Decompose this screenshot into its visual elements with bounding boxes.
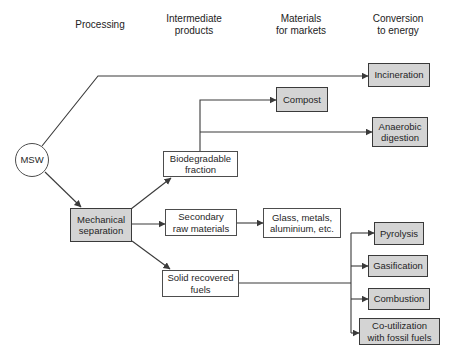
node-msw: MSW [15,143,49,177]
node-secondary-raw-materials: Secondary raw materials [165,209,237,236]
column-header-materials-for-markets: Materials for markets [257,13,345,37]
node-solid-recovered-fuels: Solid recovered fuels [162,270,239,297]
node-gasification: Gasification [368,255,428,277]
node-pyrolysis: Pyrolysis [374,222,424,245]
node-glass-metals-aluminium: Glass, metals, aluminium, etc. [263,208,341,238]
column-header-conversion-to-energy: Conversion to energy [353,13,443,37]
node-incineration: Incineration [368,63,430,87]
column-header-intermediate-products: Intermediate products [150,13,238,37]
node-mechanical-separation: Mechanical separation [70,208,132,242]
node-combustion: Combustion [368,288,430,310]
flowchart-canvas: Processing Intermediate products Materia… [0,0,453,357]
edge-mechanical-solid-fuels [132,241,170,269]
node-compost: Compost [276,87,328,112]
node-biodegradable-fraction: Biodegradable fraction [163,151,238,177]
node-co-utilization-fossil-fuels: Co-utilization with fossil fuels [359,318,440,345]
edge-mechanical-biodegradable [131,178,171,209]
edge-biodegradable-compost [200,100,276,151]
node-anaerobic-digestion: Anaerobic digestion [372,117,428,147]
column-header-processing: Processing [55,19,145,31]
edge-msw-mechanical-separation [45,172,81,207]
